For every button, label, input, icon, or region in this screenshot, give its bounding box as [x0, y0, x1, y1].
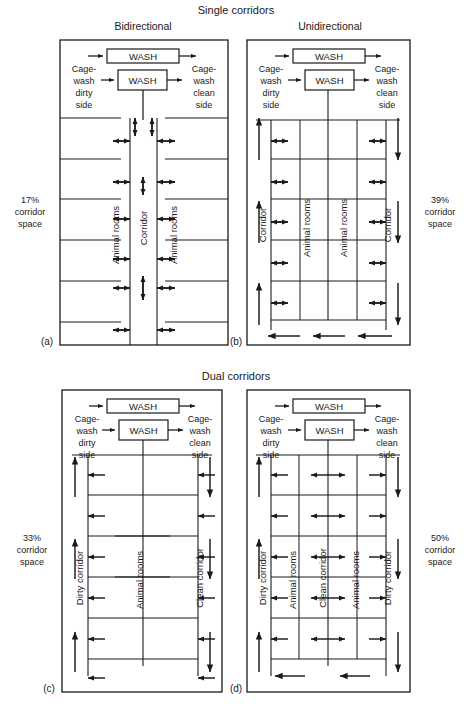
panel-c-pct-line-1: corridor: [17, 545, 48, 555]
panel-c-column-label-1: Animal rooms: [134, 551, 145, 609]
panel-a-left-line-2: dirty: [75, 88, 93, 98]
panel-a-left-line-1: wash: [72, 76, 94, 86]
panel-d-left-label: Cage- wash dirty side: [259, 414, 284, 460]
panel-c-left-line-2: dirty: [78, 438, 96, 448]
panel-a-left-line-3: side: [76, 100, 93, 110]
panel-d-pct-line-1: corridor: [425, 545, 456, 555]
panel-b-column-label-2: Animal rooms: [338, 199, 349, 257]
panel-d-right-label: Cage- wash clean side: [375, 414, 400, 460]
panel-a-corridor-space: 17% corridor space: [15, 195, 46, 229]
panel-c-column-label-0: Dirty corridor: [74, 551, 85, 605]
panel-a-right-line-0: Cage-: [192, 64, 217, 74]
panel-b-column-label-1: Animal rooms: [301, 199, 312, 257]
panel-c-wash-label-upper: WASH: [129, 401, 157, 412]
panel-a-left-label: Cage- wash dirty side: [72, 64, 97, 110]
panel-c-right-line-2: clean: [189, 438, 211, 448]
panel-b-right-line-3: side: [379, 100, 396, 110]
panel-d-right-line-0: Cage-: [375, 414, 400, 424]
panel-a-column-label-0: Animal rooms: [110, 206, 121, 264]
panel-b-letter: (b): [230, 336, 242, 347]
panel-c-letter: (c): [43, 683, 55, 694]
panel-d-column-label-1: Animal rooms: [287, 551, 298, 609]
panel-d-column-label-2: Clean corridor: [317, 548, 328, 608]
panel-b-corridor-walls: [271, 90, 386, 330]
panel-d-left-line-3: side: [263, 450, 280, 460]
panel-d-left-line-0: Cage-: [259, 414, 284, 424]
section-title-dual: Dual corridors: [202, 370, 271, 382]
panel-d-wash-label-upper: WASH: [315, 401, 343, 412]
panel-c-pct-line-0: 33%: [23, 533, 41, 543]
panel-b-title: Unidirectional: [298, 20, 362, 32]
panel-c-corridor-space: 33% corridor space: [17, 533, 48, 567]
panel-c-right-line-0: Cage-: [188, 414, 213, 424]
panel-c-right-label: Cage- wash clean side: [188, 414, 213, 460]
panel-a-pct-line-1: corridor: [15, 207, 46, 217]
panel-c-wash-label-lower: WASH: [129, 425, 157, 436]
panel-d-corridor-space: 50% corridor space: [425, 533, 456, 567]
panel-b-pct-line-2: space: [428, 219, 452, 229]
panel-a-pct-line-0: 17%: [21, 195, 39, 205]
panel-c: WASH WASH Cage- wash dirty side Cage- wa…: [17, 390, 222, 694]
panel-c-right-line-3: side: [192, 450, 209, 460]
panel-b-left-label: Cage- wash dirty side: [259, 64, 284, 110]
panel-b-right-label: Cage- wash clean side: [375, 64, 400, 110]
panel-b-pct-line-1: corridor: [425, 207, 456, 217]
panel-d-wash-label-lower: WASH: [315, 425, 343, 436]
panel-a-right-line-2: clean: [193, 88, 215, 98]
panel-b-right-line-2: clean: [376, 88, 398, 98]
panel-a-title: Bidirectional: [114, 20, 171, 32]
panel-b-left-line-2: dirty: [262, 88, 280, 98]
panel-b-pct-line-0: 39%: [431, 195, 449, 205]
panel-d-right-line-1: wash: [375, 426, 397, 436]
panel-a-right-line-3: side: [196, 100, 213, 110]
panel-a-column-label-1: Corridor: [138, 211, 149, 245]
panel-c-left-label: Cage- wash dirty side: [75, 414, 100, 460]
panel-d-letter: (d): [230, 683, 242, 694]
panel-d-right-line-2: clean: [376, 438, 398, 448]
panel-d-left-line-2: dirty: [262, 438, 280, 448]
panel-a-wash-label-lower: WASH: [128, 75, 156, 86]
panel-a: Bidirectional WASH WASH Cag: [15, 20, 228, 347]
panel-c-column-label-2: Clean corridor: [194, 548, 205, 608]
panel-d-column-label-3: Animal rooms: [350, 551, 361, 609]
panel-c-left-line-1: wash: [75, 426, 97, 436]
panel-b-right-line-1: wash: [375, 76, 397, 86]
panel-d-left-line-1: wash: [259, 426, 281, 436]
panel-a-wash-label-upper: WASH: [129, 51, 157, 62]
panel-b-right-line-0: Cage-: [375, 64, 400, 74]
panel-a-right-line-1: wash: [192, 76, 214, 86]
panel-b-left-line-3: side: [263, 100, 280, 110]
panel-a-pct-line-2: space: [18, 219, 42, 229]
panel-b: Unidirectional WASH WASH: [230, 20, 455, 347]
panel-b-left-line-1: wash: [259, 76, 281, 86]
panel-d-column-label-4: Dirty corridor: [382, 551, 393, 605]
panel-b-column-label-0: Corridor: [257, 208, 268, 242]
panel-b-left-line-0: Cage-: [259, 64, 284, 74]
panel-a-letter: (a): [41, 336, 53, 347]
panel-d: WASH WASH Cage- wash dirty side Cage- wa…: [230, 390, 455, 694]
figure-animal-facility-corridor-layouts: Single corridors Dual corridors Bidirect…: [0, 0, 473, 726]
panel-b-wash-label-upper: WASH: [315, 51, 343, 62]
panel-b-corridor-space: 39% corridor space: [425, 195, 456, 229]
panel-c-left-line-0: Cage-: [75, 414, 100, 424]
panel-c-pct-line-2: space: [20, 557, 44, 567]
panel-c-left-line-3: side: [79, 450, 96, 460]
panel-d-pct-line-0: 50%: [431, 533, 449, 543]
panel-a-column-label-2: Animal rooms: [168, 206, 179, 264]
panel-b-wash-label-lower: WASH: [315, 75, 343, 86]
panel-a-left-line-0: Cage-: [72, 64, 97, 74]
panel-d-column-label-0: Dirty corridor: [257, 551, 268, 605]
section-title-single: Single corridors: [198, 4, 275, 16]
panel-a-right-label: Cage- wash clean side: [192, 64, 217, 110]
panel-d-pct-line-2: space: [428, 557, 452, 567]
panel-b-column-label-3: Corridor: [382, 208, 393, 242]
panel-d-right-line-3: side: [379, 450, 396, 460]
panel-c-right-line-1: wash: [188, 426, 210, 436]
